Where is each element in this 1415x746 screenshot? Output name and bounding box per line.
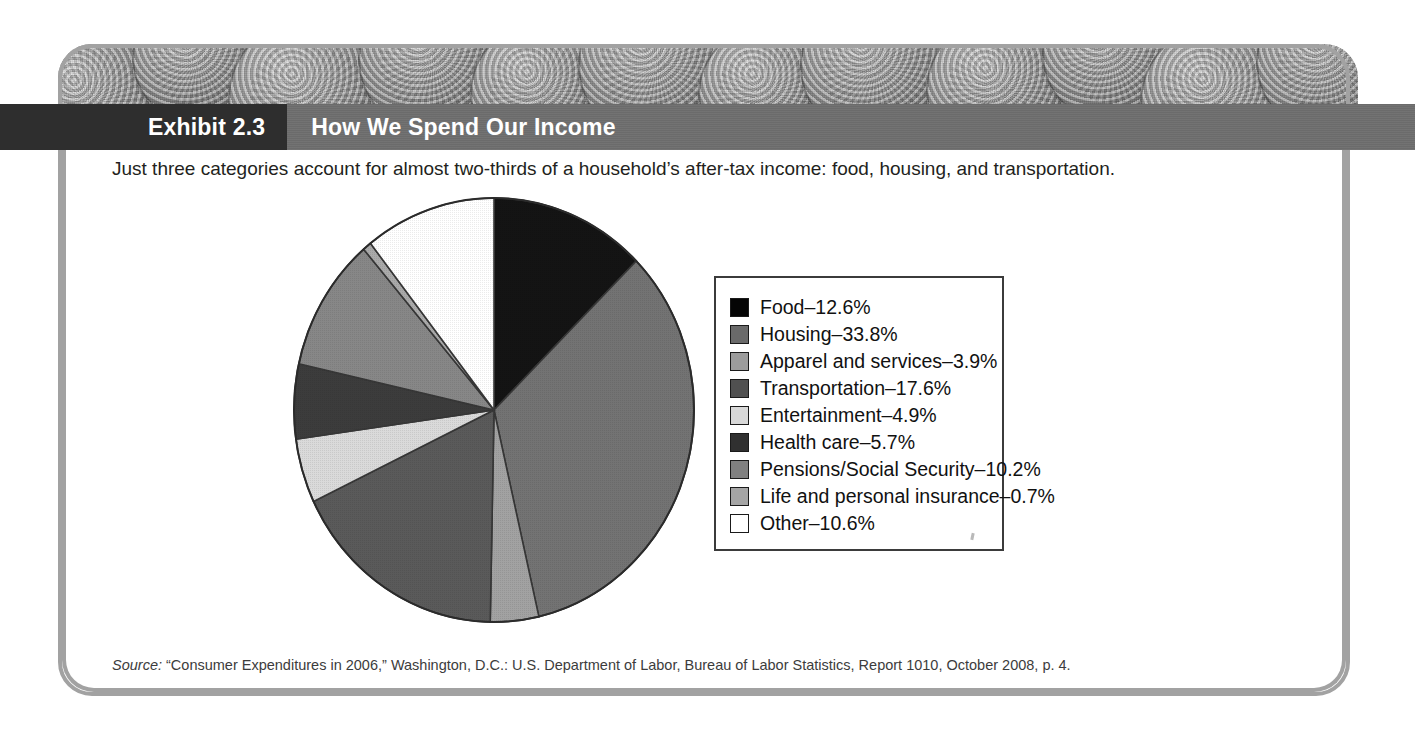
source-note: Source: “Consumer Expenditures in 2006,”… — [112, 657, 1071, 673]
legend-item[interactable]: Entertainment–4.9% — [730, 402, 1002, 429]
legend-item-label: Food–12.6% — [760, 298, 871, 318]
exhibit-number-label: Exhibit 2.3 — [0, 114, 265, 141]
legend-item[interactable]: Apparel and services–3.9% — [730, 348, 1002, 375]
exhibit-body — [62, 150, 1346, 692]
legend-swatch-icon — [730, 298, 749, 317]
legend-swatch-icon — [730, 325, 749, 344]
legend-item-label: Transportation–17.6% — [760, 379, 951, 399]
legend-swatch-icon — [730, 406, 749, 425]
pie-chart-svg — [292, 196, 696, 624]
legend-item-label: Housing–33.8% — [760, 325, 898, 345]
source-prefix: Source: — [112, 657, 162, 673]
pie-legend: Food–12.6%Housing–33.8%Apparel and servi… — [714, 276, 1004, 551]
legend-item-label: Pensions/Social Security–10.2% — [760, 460, 1041, 480]
legend-swatch-icon — [730, 460, 749, 479]
exhibit-number-tag: Exhibit 2.3 — [0, 104, 287, 150]
legend-swatch-icon — [730, 487, 749, 506]
legend-item[interactable]: Health care–5.7% — [730, 429, 1002, 456]
legend-item-label: Health care–5.7% — [760, 433, 915, 453]
legend-item-label: Entertainment–4.9% — [760, 406, 937, 426]
legend-swatch-icon — [730, 433, 749, 452]
legend-item[interactable]: Pensions/Social Security–10.2% — [730, 456, 1002, 483]
legend-item-label: Apparel and services–3.9% — [760, 352, 997, 372]
legend-swatch-icon — [730, 514, 749, 533]
legend-item[interactable]: Life and personal insurance–0.7% — [730, 483, 1002, 510]
exhibit-title: How We Spend Our Income — [287, 114, 616, 141]
pie-chart — [292, 196, 696, 624]
source-text: “Consumer Expenditures in 2006,” Washing… — [162, 657, 1071, 673]
exhibit-header-bar: Exhibit 2.3 How We Spend Our Income — [0, 104, 1415, 150]
legend-item[interactable]: Housing–33.8% — [730, 321, 1002, 348]
legend-item[interactable]: Food–12.6% — [730, 294, 1002, 321]
legend-item-label: Other–10.6% — [760, 514, 875, 534]
legend-swatch-icon — [730, 352, 749, 371]
legend-item[interactable]: Transportation–17.6% — [730, 375, 1002, 402]
exhibit-subtitle: Just three categories account for almost… — [112, 158, 1115, 180]
legend-item-label: Life and personal insurance–0.7% — [760, 487, 1055, 507]
legend-swatch-icon — [730, 379, 749, 398]
legend-item[interactable]: Other–10.6% — [730, 510, 1002, 537]
